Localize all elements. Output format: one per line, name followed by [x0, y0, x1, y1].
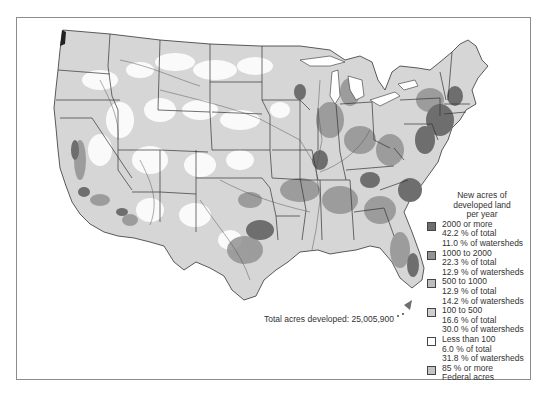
swatch-2000-plus [427, 222, 436, 231]
swatch-1000-2000 [427, 251, 436, 260]
legend-item-1000-2000: 1000 to 2000 22.3 % of total 12.9 % of w… [425, 249, 535, 278]
legend-title: New acres of developed land per year [433, 191, 531, 220]
swatch-federal [427, 366, 436, 375]
legend-item-500-1000: 500 to 1000 12.9 % of total 14.2 % of wa… [425, 277, 535, 306]
legend-item-100-500: 100 to 500 16.6 % of total 30.0 % of wat… [425, 306, 535, 335]
legend-item-2000-plus: 2000 or more 42.2 % of total 11.0 % of w… [425, 220, 535, 249]
florida-keys [397, 313, 404, 317]
legend-item-federal: 85 % or more Federal acres [425, 364, 535, 383]
swatch-100-500 [427, 308, 436, 317]
legend: New acres of developed land per year 200… [425, 191, 535, 383]
swatch-500-1000 [427, 279, 436, 288]
legend-item-less-than-100: Less than 100 6.0 % of total 31.8 % of w… [425, 335, 535, 364]
swatch-less-than-100 [427, 337, 436, 346]
total-acres-label: Total acres developed: 25,005,900 [264, 314, 394, 324]
florida-tip [404, 300, 412, 310]
